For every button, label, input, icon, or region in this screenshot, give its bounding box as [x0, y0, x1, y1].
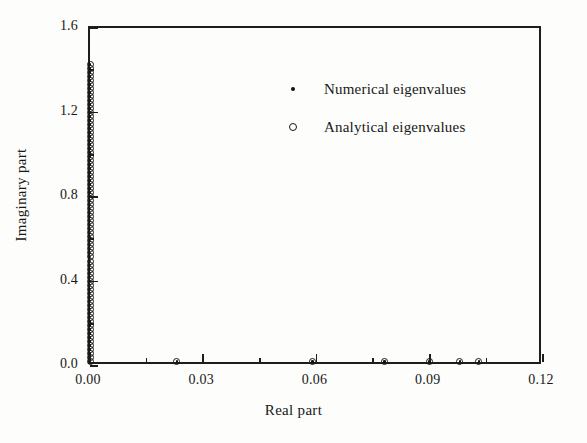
y-tick-major: [90, 365, 98, 367]
data-point-numerical: [311, 360, 314, 363]
filled-dot-icon: [286, 82, 300, 96]
x-tick-major: [89, 354, 91, 362]
x-tick-minor: [372, 358, 374, 362]
legend-label-numerical: Numerical eigenvalues: [324, 81, 466, 98]
data-point-numerical: [89, 344, 92, 347]
data-point-numerical: [89, 332, 92, 335]
data-point-numerical: [89, 328, 92, 331]
x-axis-title: Real part: [0, 402, 587, 419]
y-tick-major: [90, 196, 98, 198]
y-tick-major: [90, 27, 98, 29]
data-point-numerical: [459, 360, 462, 363]
y-tick-label: 1.2: [60, 103, 78, 119]
data-point-numerical: [383, 360, 386, 363]
x-tick-major: [202, 354, 204, 362]
data-point-numerical: [89, 336, 92, 339]
data-point-numerical: [176, 360, 179, 363]
data-point-numerical: [478, 360, 481, 363]
y-tick-minor: [90, 238, 94, 240]
legend-label-analytical: Analytical eigenvalues: [324, 119, 465, 136]
y-tick-label: 0.4: [60, 272, 78, 288]
figure-canvas: Imaginary part 0.000.030.060.090.12 0.00…: [0, 0, 587, 443]
data-point-numerical: [89, 91, 92, 94]
legend-entry-numerical: Numerical eigenvalues: [286, 70, 516, 108]
y-tick-minor: [90, 69, 94, 71]
y-tick-label: 0.8: [60, 187, 78, 203]
x-tick-label: 0.00: [75, 372, 100, 388]
open-circle-icon: [286, 120, 300, 134]
legend-entry-analytical: Analytical eigenvalues: [286, 108, 516, 146]
x-tick-major: [429, 354, 431, 362]
y-tick-major: [90, 281, 98, 283]
x-tick-minor: [146, 358, 148, 362]
x-tick-label: 0.06: [302, 372, 327, 388]
y-axis-title: Imaginary part: [8, 26, 34, 364]
y-tick-minor: [90, 154, 94, 156]
legend: Numerical eigenvalues Analytical eigenva…: [286, 70, 516, 146]
y-tick-major: [90, 112, 98, 114]
x-tick-label: 0.03: [189, 372, 214, 388]
y-tick-label: 1.6: [60, 18, 78, 34]
x-tick-label: 0.09: [415, 372, 440, 388]
data-point-numerical: [89, 340, 92, 343]
data-point-numerical: [89, 63, 92, 66]
data-point-numerical: [89, 115, 92, 118]
y-tick-label: 0.0: [60, 356, 78, 372]
x-tick-minor: [259, 358, 261, 362]
y-tick-minor: [90, 323, 94, 325]
data-point-numerical: [89, 348, 92, 351]
x-tick-major: [316, 354, 318, 362]
x-tick-label: 0.12: [528, 372, 553, 388]
x-tick-minor: [486, 358, 488, 362]
x-tick-major: [542, 354, 544, 362]
